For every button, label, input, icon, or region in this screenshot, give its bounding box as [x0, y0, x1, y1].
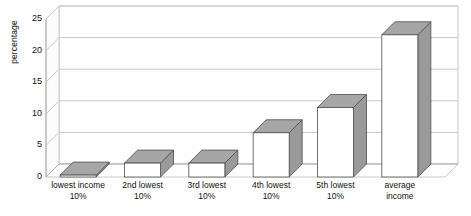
bar-3[interactable] [253, 120, 302, 177]
y-tick-label-15: 15 [20, 77, 42, 86]
plot-left-wall [46, 6, 59, 177]
category-label-line: income [352, 191, 448, 202]
bar-5[interactable] [382, 22, 431, 177]
bar-chart: percentage 0510152025lowest income10%2nd… [0, 0, 471, 216]
y-tick-label-25: 25 [20, 14, 42, 23]
bar-4[interactable] [317, 94, 366, 177]
y-tick-label-10: 10 [20, 109, 42, 118]
category-label-5: averageincome [352, 180, 448, 201]
y-tick-label-20: 20 [20, 46, 42, 55]
y-tick-label-5: 5 [20, 140, 42, 149]
category-label-line: average [352, 180, 448, 191]
